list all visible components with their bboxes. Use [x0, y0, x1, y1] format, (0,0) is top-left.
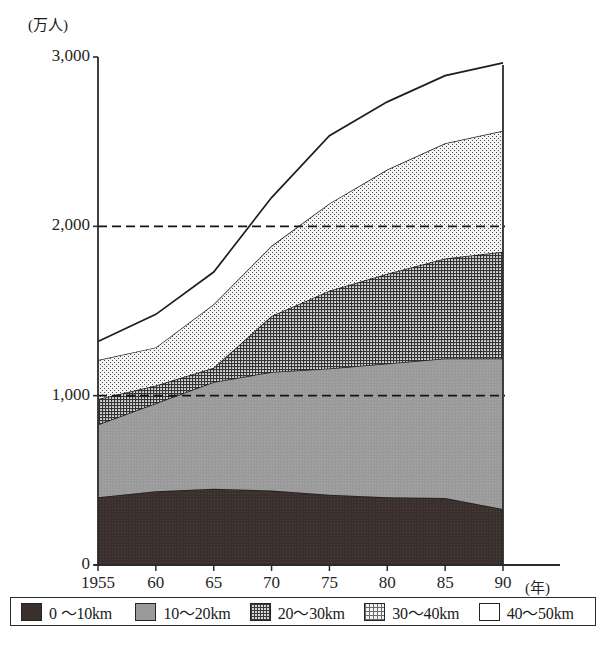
legend-swatch-30-40km: [364, 603, 385, 621]
legend-item-40-50km[interactable]: 40～50km: [475, 600, 589, 624]
legend-label-30-40km: 30～40km: [392, 600, 459, 624]
legend-item-30-40km[interactable]: 30～40km: [360, 600, 474, 624]
y-tick-label-2000: 2,000: [8, 215, 90, 235]
plot-area: [0, 0, 610, 652]
legend-item-0-10km[interactable]: 0 ～10km: [17, 600, 131, 624]
y-tick-label-1000: 1,000: [8, 385, 90, 405]
x-axis-unit-label: (年): [525, 576, 550, 597]
legend-swatch-0-10km: [21, 603, 42, 621]
legend-item-10-20km[interactable]: 10～20km: [131, 600, 245, 624]
legend-item-20-30km[interactable]: 20～30km: [246, 600, 360, 624]
legend-label-0-10km: 0 ～10km: [49, 600, 112, 624]
stacked-band-group: [98, 63, 503, 565]
legend: 0 ～10km 10～20km 20～30km 30～40km 40～50km: [10, 597, 596, 626]
legend-label-40-50km: 40～50km: [507, 600, 574, 624]
y-tick-label-3000: 3,000: [8, 46, 90, 66]
legend-swatch-10-20km: [135, 603, 156, 621]
y-tick-label-0: 0: [8, 554, 90, 574]
legend-label-20-30km: 20～30km: [278, 600, 345, 624]
legend-swatch-20-30km: [250, 603, 271, 621]
legend-label-10-20km: 10～20km: [163, 600, 230, 624]
band-band_0_10: [98, 489, 503, 565]
legend-swatch-40-50km: [479, 603, 500, 621]
area-chart: (万人): [0, 0, 610, 652]
